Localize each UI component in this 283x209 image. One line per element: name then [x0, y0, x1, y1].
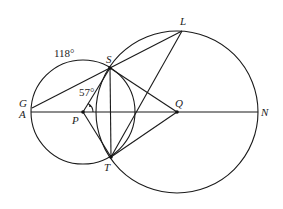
label-P: P	[71, 114, 79, 126]
point-Q	[175, 110, 179, 114]
line-TQ	[111, 112, 177, 157]
label-L: L	[179, 15, 186, 27]
point-P	[81, 110, 85, 114]
line-SQ	[110, 68, 177, 112]
arc-measure-118: 118°	[54, 47, 75, 59]
line-TL	[111, 31, 182, 157]
angle-dot-P	[89, 105, 91, 107]
label-A: A	[18, 108, 26, 120]
label-T: T	[104, 161, 111, 173]
line-PT	[83, 112, 111, 157]
label-N: N	[260, 106, 269, 118]
geometry-diagram: G A P Q N S T L 118° 57°	[0, 0, 283, 209]
angle-arc-P	[88, 104, 93, 113]
point-T	[109, 155, 113, 159]
point-S	[108, 66, 112, 70]
angle-measure-57: 57°	[79, 86, 94, 98]
line-GL	[32, 31, 182, 108]
label-S: S	[106, 53, 112, 65]
line-ST	[110, 68, 111, 157]
label-Q: Q	[175, 97, 183, 109]
